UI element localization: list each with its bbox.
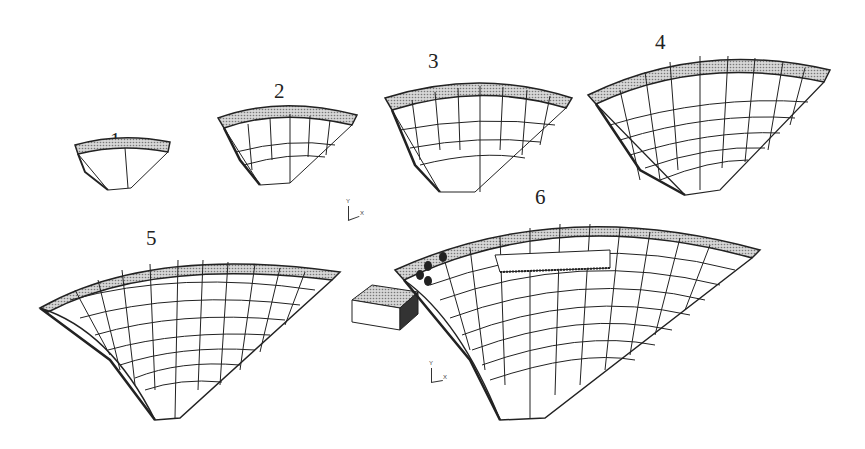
axis-y-line	[348, 206, 349, 220]
shell-stage-2	[218, 106, 357, 185]
axis-x-label: X	[443, 374, 447, 380]
axis-x-line	[348, 216, 360, 221]
shell-stage-4	[588, 56, 830, 195]
axis-y-label: Y	[346, 198, 350, 204]
axis-x-line	[431, 380, 443, 383]
axis-triad-1: Y X	[340, 198, 364, 226]
shell-stage-1	[75, 138, 170, 190]
axis-triad-2: Y X	[423, 360, 447, 388]
axis-y-line	[431, 368, 432, 382]
attached-box	[352, 285, 418, 330]
shell-stage-6	[352, 224, 760, 420]
shell-stage-5	[40, 260, 340, 420]
axis-y-label: Y	[429, 360, 433, 366]
shell-stage-3	[385, 83, 572, 192]
axis-x-label: X	[360, 210, 364, 216]
